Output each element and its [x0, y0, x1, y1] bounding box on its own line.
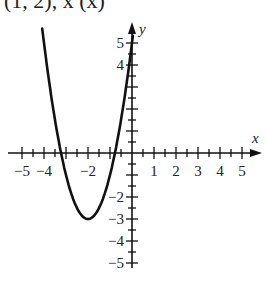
y-axis: y 5 4 −2 −3 −4 −5 [108, 21, 146, 271]
svg-text:−4: −4 [36, 163, 52, 179]
svg-text:5: 5 [117, 35, 125, 51]
svg-text:−3: −3 [108, 211, 124, 227]
svg-text:−5: −5 [108, 255, 124, 271]
svg-text:2: 2 [172, 163, 180, 179]
svg-text:4: 4 [216, 163, 224, 179]
svg-text:4: 4 [117, 57, 125, 73]
y-axis-arrow-icon [128, 22, 136, 34]
x-axis-arrow-icon [250, 149, 262, 157]
x-axis: x −5 −4 −2 1 2 3 4 5 [8, 130, 262, 179]
parabola-graph: x −5 −4 −2 1 2 3 4 5 y 5 4 −2 −3 −4 [0, 0, 267, 283]
svg-text:−2: −2 [80, 163, 96, 179]
x-axis-name: x [251, 130, 259, 146]
svg-text:−4: −4 [108, 233, 124, 249]
y-axis-name: y [137, 21, 146, 37]
svg-text:−2: −2 [108, 189, 124, 205]
svg-text:5: 5 [238, 163, 246, 179]
svg-text:1: 1 [150, 163, 158, 179]
svg-text:−5: −5 [14, 163, 30, 179]
svg-text:3: 3 [194, 163, 202, 179]
